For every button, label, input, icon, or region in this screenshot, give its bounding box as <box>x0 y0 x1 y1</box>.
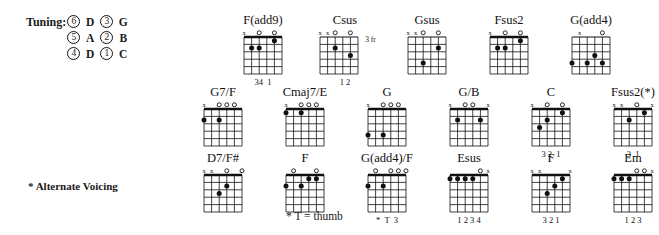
diagram-wrap: x <box>238 28 288 77</box>
chord-diagram[interactable]: Gsusxx <box>386 14 468 87</box>
chord-diagram-grid: xx <box>314 28 364 77</box>
diagram-wrap: x <box>484 28 534 77</box>
finger-dot <box>463 176 468 181</box>
chord-diagram[interactable]: G7/Fx <box>182 86 264 159</box>
chord-row-2: G7/FxCmaj7/ExGxG/BxxCx3 2 1Fsus2(*)xxx3 … <box>182 86 659 159</box>
chord-diagram[interactable]: Cx3 2 1 <box>510 86 592 159</box>
finger-dot <box>537 125 542 130</box>
chord-name: Gsus <box>414 14 439 27</box>
chord-name: Esus <box>457 152 481 165</box>
diagram-wrap: xx <box>444 100 494 149</box>
finger-dot <box>224 184 229 189</box>
chord-name: G7/F <box>210 86 236 99</box>
chord-diagram[interactable]: D7/F#xx <box>182 152 264 225</box>
chord-diagram-grid: xx <box>198 166 248 215</box>
finger-dot <box>202 118 207 123</box>
finger-dot <box>570 60 575 65</box>
chord-diagram-grid: x <box>444 166 494 215</box>
chord-diagram-grid: x <box>238 28 288 77</box>
finger-dot <box>518 38 523 43</box>
svg-text:x: x <box>530 101 534 108</box>
diagram-wrap: xxx <box>526 166 576 215</box>
finger-dot <box>592 53 597 58</box>
svg-text:x: x <box>326 29 330 36</box>
svg-text:x: x <box>578 29 582 36</box>
finger-dot <box>470 176 475 181</box>
chord-name: G/B <box>459 86 480 99</box>
svg-text:x: x <box>406 29 410 36</box>
finger-dot <box>299 110 304 115</box>
finger-dot <box>455 118 460 123</box>
finger-dot <box>545 191 550 196</box>
string-note: D <box>80 48 100 60</box>
chord-name: G(add4) <box>570 14 612 27</box>
chord-name: Em <box>624 152 641 165</box>
chord-diagram[interactable]: Esusx1 2 3 4 <box>428 152 510 225</box>
chord-diagram[interactable]: F(add9)x34 1 <box>222 14 304 87</box>
diagram-wrap: x <box>198 100 248 149</box>
chord-diagram-grid: xxx <box>608 100 658 149</box>
chord-diagram[interactable]: Fsus2(*)xxx3 1 <box>592 86 659 159</box>
tuning-rows: 6D3G5A2B4D1C <box>67 14 133 61</box>
chord-name: C <box>547 86 555 99</box>
chord-diagram-grid: xx <box>402 28 452 77</box>
string-number-circle: 2 <box>100 31 113 44</box>
svg-text:x: x <box>650 167 654 174</box>
chord-diagram[interactable]: G/Bxx <box>428 86 510 159</box>
finger-dot <box>257 46 262 51</box>
finger-dot <box>284 110 289 115</box>
string-note: D <box>80 16 100 28</box>
diagram-wrap: x <box>608 166 658 215</box>
chord-row-3: D7/F#xxFG(add4)/F* T 3Esusx1 2 3 4Fxxx3 … <box>182 152 659 225</box>
finger-dot <box>366 184 371 189</box>
chord-diagram[interactable]: G(add4)/F* T 3 <box>346 152 428 225</box>
chord-name: G(add4)/F <box>361 152 413 165</box>
finger-dot <box>217 191 222 196</box>
finger-dot <box>503 46 508 51</box>
string-note: G <box>113 16 133 28</box>
chord-name: G <box>382 86 391 99</box>
chord-diagram-grid: x <box>362 100 412 149</box>
svg-text:x: x <box>486 101 490 108</box>
chord-diagram[interactable]: Gx <box>346 86 428 159</box>
svg-text:x: x <box>620 101 624 108</box>
svg-text:x: x <box>210 167 214 174</box>
chord-diagram[interactable]: Fxxx3 2 1 <box>510 152 592 225</box>
chord-row-1: F(add9)x34 1Csusxx3 fr1 2GsusxxFsus2xG(a… <box>222 14 632 87</box>
finger-dot <box>381 184 386 189</box>
finger-dot <box>560 110 565 115</box>
fingering-numbers: 1 2 3 <box>625 215 642 225</box>
chord-name: Fsus2 <box>494 14 523 27</box>
chord-diagram-grid: x <box>526 100 576 149</box>
string-note: B <box>113 32 133 44</box>
diagram-wrap: x <box>526 100 576 149</box>
diagram-wrap: x <box>566 28 616 77</box>
chord-diagram[interactable]: Cmaj7/Ex <box>264 86 346 159</box>
string-number-circle: 6 <box>67 15 80 28</box>
chord-name: Cmaj7/E <box>283 86 327 99</box>
svg-text:x: x <box>242 29 246 36</box>
chord-name: Csus <box>333 14 357 27</box>
diagram-wrap <box>280 166 330 215</box>
chord-name: D7/F# <box>207 152 239 165</box>
finger-dot <box>627 176 632 181</box>
chord-diagram-grid: x <box>484 28 534 77</box>
svg-text:x: x <box>650 101 654 108</box>
diagram-wrap: xxx <box>608 100 658 149</box>
finger-dot <box>306 176 311 181</box>
chord-diagram[interactable]: Emx1 2 3 <box>592 152 659 225</box>
chord-diagram[interactable]: G(add4)x <box>550 14 632 87</box>
chord-diagram[interactable]: Csusxx3 fr1 2 <box>304 14 386 87</box>
string-number-circle: 4 <box>67 47 80 60</box>
chord-name: F <box>548 152 555 165</box>
chord-diagram[interactable]: Fsus2x <box>468 14 550 87</box>
svg-text:x: x <box>202 167 206 174</box>
diagram-wrap: xx <box>198 166 248 215</box>
fingering-numbers: 1 2 3 4 <box>457 215 480 225</box>
finger-dot <box>642 110 647 115</box>
finger-dot <box>552 184 557 189</box>
finger-dot <box>299 184 304 189</box>
svg-text:x: x <box>530 167 534 174</box>
fingering-numbers: * T 3 <box>376 215 398 225</box>
string-note: A <box>80 32 100 44</box>
